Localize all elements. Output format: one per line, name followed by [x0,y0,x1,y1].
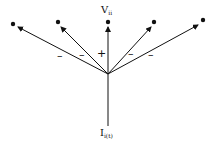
node-dot-4 [152,20,156,24]
branch-arrow-1 [18,27,108,74]
bottom-label-sub: i(t) [104,132,113,139]
sign-1: – [57,50,63,61]
node-dot-5 [201,18,205,22]
bottom-label: Ii(t) [100,128,113,141]
node-dot-3 [106,20,110,24]
top-label: Vii [101,5,112,18]
sign-4: – [128,48,134,59]
sign-5: – [148,49,154,60]
node-dot-2 [56,20,60,24]
sign-2: – [79,49,85,60]
branch-diagram [0,0,211,148]
sign-3: + [97,48,106,59]
node-dot-1 [11,22,15,26]
top-label-sub: ii [108,9,112,16]
